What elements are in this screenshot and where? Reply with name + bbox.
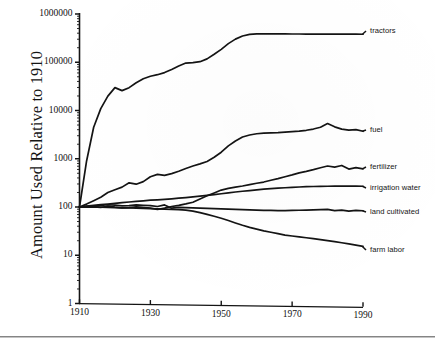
y-tick-label-1000000: 1000000 — [0, 8, 73, 18]
x-tick-label-1990: 1990 — [337, 310, 389, 320]
y-tick-label-10: 10 — [0, 249, 73, 259]
y-tick-label-100: 100 — [0, 201, 73, 211]
x-tick-label-1930: 1930 — [124, 308, 176, 318]
series-label-land-cultivated: land cultivated — [370, 207, 419, 216]
page-bottom-rule — [0, 336, 435, 339]
series-label-irrigation-water: irrigation water — [370, 183, 421, 192]
x-tick-label-1910: 1910 — [54, 307, 106, 317]
x-tick-label-1950: 1950 — [195, 309, 247, 319]
series-label-fuel: fuel — [370, 125, 382, 134]
y-tick-label-10000: 10000 — [0, 105, 73, 115]
series-label-tractors: tractors — [370, 26, 396, 35]
x-tick-label-1970: 1970 — [266, 309, 318, 319]
series-label-farm-labor: farm labor — [370, 245, 405, 254]
y-tick-label-1: 1 — [0, 298, 73, 308]
chart-axes — [75, 13, 363, 307]
y-tick-label-100000: 100000 — [0, 56, 73, 66]
series-line-tractors — [80, 34, 364, 207]
figure-chart-agricultural-inputs: Amount Used Relative to 1910 10000001000… — [0, 0, 435, 352]
series-label-fertilizer: fertilizer — [370, 162, 397, 171]
series-label-leaders — [363, 31, 367, 250]
y-tick-label-1000: 1000 — [0, 153, 73, 163]
chart-series-lines — [80, 34, 364, 247]
series-line-farm-labor — [80, 207, 364, 247]
